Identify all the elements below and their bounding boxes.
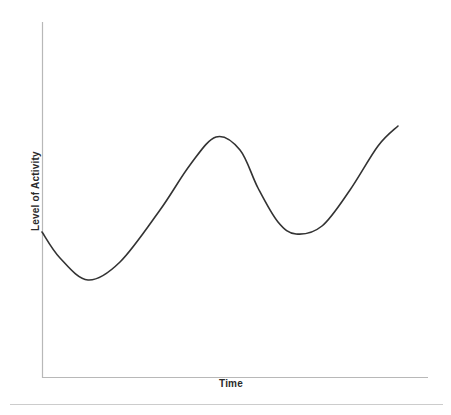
y-axis-label: Level of Activity	[30, 151, 41, 231]
chart-plot-area	[0, 0, 451, 415]
x-axis-label: Time	[219, 378, 243, 389]
chart-figure: Level of Activity Time	[0, 0, 451, 415]
activity-curve	[42, 126, 398, 280]
